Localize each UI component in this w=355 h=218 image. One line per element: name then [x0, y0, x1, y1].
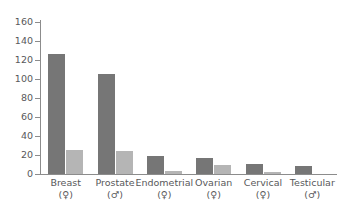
y-axis-tick: [35, 79, 40, 80]
y-axis-tick: [35, 117, 40, 118]
bar: [165, 171, 182, 174]
y-axis-tick-label: 40: [3, 131, 33, 141]
bar: [98, 74, 115, 174]
bar: [66, 150, 83, 174]
bar: [246, 164, 263, 174]
category-name: Testicular: [277, 177, 347, 189]
y-axis-tick: [35, 41, 40, 42]
y-axis-tick-label: 140: [3, 36, 33, 46]
y-axis-tick-label: 120: [3, 55, 33, 65]
y-axis-tick: [35, 22, 40, 23]
y-axis-tick-label: 160: [3, 17, 33, 27]
bar: [147, 156, 164, 174]
y-axis-tick: [35, 136, 40, 137]
y-axis-tick: [35, 174, 40, 175]
bar: [264, 172, 281, 174]
bar: [196, 158, 213, 174]
bar-chart: 020406080100120140160 Breast(♀)Prostate(…: [0, 0, 355, 218]
y-axis-tick-label: 0: [3, 169, 33, 179]
y-axis-tick-label: 100: [3, 74, 33, 84]
bar: [116, 151, 133, 174]
y-axis-tick: [35, 98, 40, 99]
plot-area: [41, 22, 341, 174]
x-axis-category-label: Testicular(♂): [277, 177, 347, 200]
y-axis-tick-label: 60: [3, 112, 33, 122]
x-axis-line: [40, 174, 337, 175]
bar: [295, 166, 312, 174]
y-axis-tick: [35, 155, 40, 156]
bar: [48, 54, 65, 174]
y-axis-tick: [35, 60, 40, 61]
category-sex-symbol: (♂): [277, 189, 347, 201]
bar: [214, 165, 231, 174]
y-axis-tick-label: 20: [3, 150, 33, 160]
y-axis-tick-label: 80: [3, 93, 33, 103]
y-axis-tick-labels: 020406080100120140160: [0, 0, 33, 218]
